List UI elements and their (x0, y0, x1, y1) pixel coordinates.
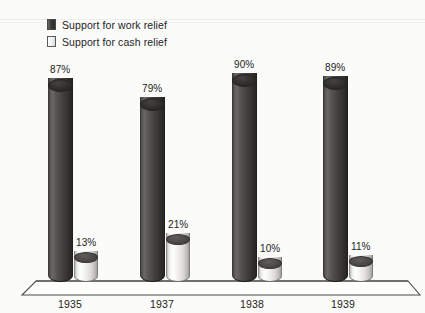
bar-work-relief-1938 (232, 74, 255, 282)
bar-work-relief-1939 (323, 77, 346, 282)
bar-work-relief-1935 (48, 79, 71, 282)
bar-cash-relief-1939 (349, 256, 371, 282)
bar-top-cap (258, 258, 282, 269)
category-label-1935: 1935 (58, 298, 82, 310)
bar-top-cap (48, 79, 73, 92)
value-label-work-relief-1939: 89% (325, 62, 345, 73)
bar-cash-relief-1935 (74, 252, 96, 282)
value-label-work-relief-1935: 87% (50, 64, 70, 75)
bar-body (232, 73, 257, 282)
bar-top-cap (74, 252, 98, 263)
bar-top-cap (232, 74, 257, 87)
bar-work-relief-1937 (140, 98, 163, 282)
value-label-work-relief-1938: 90% (234, 59, 254, 70)
category-label-1937: 1937 (150, 298, 174, 310)
bar-chart: Support for work relief Support for cash… (0, 0, 425, 313)
plot-area: 87% 13% 1935 79% 21% 1937 90% 10% (0, 0, 425, 313)
bar-top-cap (166, 234, 190, 245)
bar-body (48, 78, 73, 282)
value-label-work-relief-1937: 79% (142, 83, 162, 94)
bar-cash-relief-1938 (258, 258, 280, 282)
value-label-cash-relief-1937: 21% (168, 219, 188, 230)
bar-body (323, 76, 348, 282)
bar-top-cap (140, 98, 165, 111)
bar-body (140, 97, 165, 282)
value-label-cash-relief-1935: 13% (76, 237, 96, 248)
value-label-cash-relief-1938: 10% (260, 243, 280, 254)
bar-cash-relief-1937 (166, 234, 188, 282)
bar-top-cap (323, 77, 348, 90)
category-label-1938: 1938 (240, 298, 264, 310)
category-label-1939: 1939 (331, 298, 355, 310)
value-label-cash-relief-1939: 11% (351, 241, 371, 252)
bar-top-cap (349, 256, 373, 267)
